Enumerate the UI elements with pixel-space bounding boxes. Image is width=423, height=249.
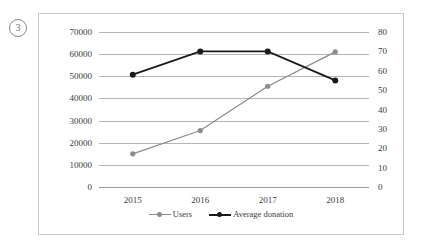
- series-plot: [99, 32, 369, 187]
- x-axis-tick-label: 2015: [124, 195, 142, 205]
- legend-swatch: [149, 211, 171, 218]
- right-axis-tick-label: 80: [378, 27, 387, 37]
- left-axis-tick-label: 10000: [70, 160, 93, 170]
- left-axis-tick-label: 20000: [70, 138, 93, 148]
- series-line: [133, 51, 336, 80]
- data-point-marker: [130, 151, 135, 156]
- x-axis-tick-label: 2017: [259, 195, 277, 205]
- data-point-marker: [333, 49, 338, 54]
- legend-swatch: [209, 211, 231, 218]
- data-point-marker: [197, 48, 203, 54]
- right-axis-tick-label: 50: [378, 85, 387, 95]
- legend-entry[interactable]: Users: [149, 210, 192, 219]
- right-axis-tick-label: 30: [378, 124, 387, 134]
- legend-entry[interactable]: Average donation: [209, 210, 293, 219]
- right-axis-tick-label: 40: [378, 105, 387, 115]
- left-axis-tick-label: 40000: [70, 93, 93, 103]
- right-axis-tick-label: 60: [378, 66, 387, 76]
- chart-frame: 010000200003000040000500006000070000 010…: [38, 13, 404, 235]
- data-point-marker: [265, 48, 271, 54]
- left-axis-tick-label: 0: [88, 182, 93, 192]
- right-axis-tick-label: 70: [378, 46, 387, 56]
- legend-label: Average donation: [233, 210, 293, 219]
- right-axis-tick-label: 10: [378, 163, 387, 173]
- data-point-marker: [265, 84, 270, 89]
- chart-legend: UsersAverage donation: [39, 210, 403, 219]
- data-point-marker: [130, 72, 136, 78]
- right-axis-tick-label: 0: [378, 182, 383, 192]
- left-axis-tick-label: 60000: [70, 49, 93, 59]
- data-point-marker: [332, 77, 338, 83]
- left-axis-tick-label: 70000: [70, 27, 93, 37]
- gridline: [99, 187, 369, 188]
- data-point-marker: [198, 128, 203, 133]
- right-axis-tick-label: 20: [378, 143, 387, 153]
- question-number-badge: 3: [9, 19, 27, 37]
- plot-area: 010000200003000040000500006000070000 010…: [99, 32, 369, 187]
- left-axis-tick-label: 30000: [70, 116, 93, 126]
- x-axis-tick-label: 2018: [326, 195, 344, 205]
- legend-label: Users: [173, 210, 192, 219]
- x-axis-tick-label: 2016: [191, 195, 209, 205]
- left-axis-tick-label: 50000: [70, 71, 93, 81]
